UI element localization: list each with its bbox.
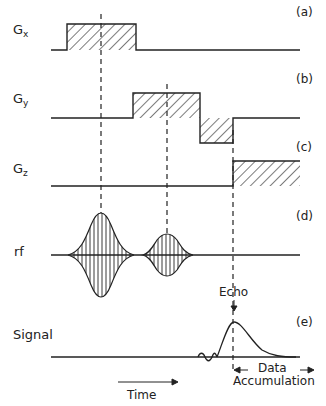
tag-c: (c)	[296, 141, 312, 153]
tag-d: (d)	[296, 210, 313, 222]
signal-waveform	[51, 322, 300, 361]
gx-label: Gx	[13, 23, 28, 39]
rf-waveform	[51, 213, 300, 297]
tag-b: (b)	[296, 73, 313, 85]
gy-waveform	[51, 93, 300, 143]
gz-waveform	[51, 161, 300, 186]
data-label: Data	[258, 362, 287, 374]
signal-label: Signal	[13, 328, 53, 341]
time-label: Time	[127, 389, 156, 401]
accumulation-label: Accumulation	[233, 375, 315, 387]
pulse-sequence-diagram	[0, 0, 326, 406]
gx-waveform	[51, 24, 300, 50]
time-arrow	[118, 379, 178, 385]
tag-e: (e)	[296, 316, 313, 328]
gz-label: Gz	[13, 162, 28, 178]
tag-a: (a)	[296, 6, 313, 18]
dashed-guide-lines	[101, 14, 233, 372]
echo-label: Echo	[219, 286, 248, 298]
echo-arrow	[231, 300, 237, 311]
rf-label: rf	[14, 245, 24, 258]
gy-label: Gy	[13, 92, 28, 108]
